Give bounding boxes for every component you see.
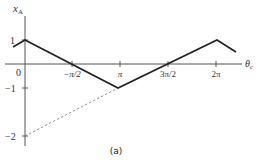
x-tick-label-pi-half: −π/2 xyxy=(63,69,81,79)
chart: xA θc 1 0 −1 −2 −π/2 π 3π/2 2π (a) xyxy=(0,0,256,162)
figure-caption: (a) xyxy=(110,146,123,156)
dashed-extension-line xyxy=(25,88,118,136)
y-axis-label-sub: A xyxy=(18,8,23,16)
y-axis-label: xA xyxy=(12,2,23,16)
x-tick-label-3pi-half: 3π/2 xyxy=(160,69,176,79)
y-tick-label-m2: −2 xyxy=(5,131,16,142)
y-tick-label-1: 1 xyxy=(10,35,15,46)
origin-label: 0 xyxy=(16,67,21,78)
y-tick-label-m1: −1 xyxy=(5,83,16,94)
x-tick-label-pi: π xyxy=(118,69,123,79)
x-axis-label-sub: c xyxy=(250,63,254,71)
x-tick-label-2pi: 2π xyxy=(211,69,221,79)
x-axis-label: θc xyxy=(245,58,254,71)
